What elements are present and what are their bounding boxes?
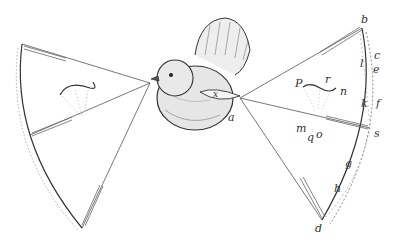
label-m: m bbox=[296, 123, 306, 134]
label-f: f bbox=[376, 98, 380, 109]
bird-head bbox=[157, 60, 193, 96]
label-x: x bbox=[213, 90, 218, 99]
figure-canvas: b c l e P r n k f m q o s g h d a x bbox=[0, 0, 395, 248]
right-wing-inner-curve bbox=[303, 85, 336, 91]
bird-eye bbox=[169, 73, 173, 77]
label-d: d bbox=[315, 223, 322, 234]
left-wing-arc bbox=[20, 44, 82, 228]
label-h: h bbox=[334, 183, 341, 194]
label-q: q bbox=[307, 132, 314, 143]
left-wing-upper-edge bbox=[22, 44, 150, 83]
label-c: c bbox=[374, 50, 380, 61]
right-wing-lower-edge bbox=[240, 98, 322, 220]
label-l: l bbox=[360, 58, 364, 69]
label-s: s bbox=[374, 128, 380, 139]
left-wing-middle-edge bbox=[30, 83, 150, 135]
label-n: n bbox=[340, 86, 347, 97]
bird bbox=[151, 18, 250, 130]
label-g: g bbox=[345, 158, 352, 169]
left-wing-dotted-arc bbox=[16, 48, 78, 230]
bird-beak bbox=[151, 76, 159, 81]
label-b: b bbox=[361, 14, 368, 25]
label-k: k bbox=[361, 98, 368, 109]
label-o: o bbox=[316, 129, 323, 140]
label-P: P bbox=[295, 78, 302, 89]
label-r: r bbox=[325, 74, 330, 85]
wing-diagram-svg bbox=[0, 0, 395, 248]
label-e: e bbox=[373, 64, 380, 75]
left-wing-inner-curve bbox=[60, 82, 95, 95]
left-wing-lower-edge bbox=[82, 83, 150, 228]
label-a: a bbox=[228, 112, 235, 123]
